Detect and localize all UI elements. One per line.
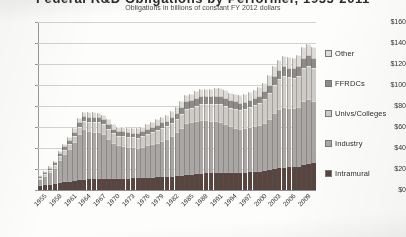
bar-segment-intramural (92, 178, 96, 190)
bar-segment-industry (43, 176, 47, 184)
y-axis-tick-label: $160 (374, 18, 406, 25)
legend-label: Intramural (335, 169, 370, 178)
bar-1994 (228, 93, 232, 190)
bar-segment-industry (58, 160, 62, 182)
legend-item-industry[interactable]: Industry (325, 128, 405, 158)
bar-segment-univs-colleges (150, 132, 154, 144)
bar-segment-univs-colleges (277, 79, 281, 109)
bar-segment-industry (175, 132, 179, 176)
bar-segment-ffrdcs (218, 96, 222, 104)
bar-segment-industry (121, 146, 125, 178)
y-tick-mark (35, 169, 38, 170)
bar-1958 (53, 161, 57, 190)
bar-segment-ffrdcs (301, 58, 305, 68)
x-axis-tick-label: 1967 (91, 192, 106, 207)
bar-segment-industry (204, 120, 208, 172)
bar-segment-univs-colleges (97, 122, 101, 132)
x-axis-tick-label: 1961 (62, 192, 77, 207)
bar-2006 (287, 57, 291, 190)
bar-segment-univs-colleges (175, 119, 179, 132)
bar-1968 (101, 115, 105, 190)
bar-1984 (179, 101, 183, 190)
x-axis-tick-label: 2006 (281, 192, 296, 207)
bar-segment-intramural (62, 181, 66, 190)
bar-segment-industry (62, 154, 66, 181)
bar-segment-other (311, 47, 315, 58)
legend-item-ffrdcs[interactable]: FFRDCs (325, 68, 405, 98)
x-axis-tick-label: 2009 (296, 192, 311, 207)
x-axis-tick-label: 1982 (164, 192, 179, 207)
bar-segment-univs-colleges (267, 93, 271, 119)
bar-segment-intramural (53, 183, 57, 190)
bar-segment-ffrdcs (214, 96, 218, 104)
bar-segment-univs-colleges (82, 121, 86, 129)
legend-item-other[interactable]: Other (325, 38, 405, 68)
bar-segment-univs-colleges (243, 109, 247, 128)
bar-segment-intramural (204, 172, 208, 190)
bar-segment-intramural (199, 173, 203, 190)
bar-2004 (277, 60, 281, 190)
bar-segment-industry (214, 121, 218, 171)
bar-segment-intramural (175, 175, 179, 190)
bar-segment-ffrdcs (287, 68, 291, 78)
bar-segment-other (214, 88, 218, 96)
bar-segment-univs-colleges (296, 76, 300, 107)
bar-segment-ffrdcs (282, 66, 286, 76)
x-axis-tick-label: 1964 (77, 192, 92, 207)
bar-segment-industry (53, 168, 57, 183)
bar-segment-univs-colleges (238, 110, 242, 129)
bar-segment-univs-colleges (262, 99, 266, 123)
bar-segment-industry (194, 121, 198, 174)
bar-1956 (43, 171, 47, 190)
bar-segment-intramural (82, 179, 86, 190)
bar-segment-intramural (262, 170, 266, 190)
bar-segment-intramural (106, 178, 110, 190)
bar-segment-univs-colleges (145, 134, 149, 145)
bar-2001 (262, 83, 266, 190)
bar-segment-univs-colleges (214, 104, 218, 121)
bar-segment-industry (67, 149, 71, 181)
legend-item-univs-colleges[interactable]: Univs/Colleges (325, 98, 405, 128)
x-axis-tick-label: 1988 (194, 192, 209, 207)
chart-legend: OtherFFRDCsUnivs/CollegesIndustryIntramu… (325, 38, 405, 188)
bar-segment-univs-colleges (101, 124, 105, 134)
bar-segment-industry (262, 123, 266, 170)
bar-segment-other (282, 56, 286, 66)
gridline (38, 43, 316, 44)
bar-segment-industry (106, 139, 110, 178)
bar-segment-intramural (155, 176, 159, 190)
bar-segment-intramural (214, 172, 218, 190)
bar-segment-industry (277, 109, 281, 167)
bar-segment-other (267, 75, 271, 84)
bar-1963 (77, 118, 81, 190)
bar-segment-intramural (136, 177, 140, 190)
bar-2002 (267, 75, 271, 190)
bar-segment-univs-colleges (92, 122, 96, 132)
bar-segment-univs-colleges (77, 127, 81, 134)
bar-segment-industry (218, 122, 222, 171)
bar-segment-industry (92, 132, 96, 178)
bar-segment-intramural (170, 176, 174, 190)
bar-segment-univs-colleges (126, 137, 130, 147)
bar-segment-intramural (101, 178, 105, 190)
bar-segment-industry (87, 131, 91, 178)
x-axis-tick-label: 1997 (238, 192, 253, 207)
bar-segment-industry (257, 125, 261, 170)
bar-2009 (301, 47, 305, 190)
legend-item-intramural[interactable]: Intramural (325, 158, 405, 188)
bar-segment-ffrdcs (223, 98, 227, 106)
bar-segment-univs-colleges (170, 123, 174, 135)
bar-segment-industry (287, 108, 291, 167)
bar-segment-industry (189, 122, 193, 173)
bar-1997 (243, 94, 247, 190)
bar-1993 (223, 90, 227, 190)
bar-segment-univs-colleges (87, 122, 91, 131)
bar-1974 (131, 128, 135, 190)
bar-segment-univs-colleges (301, 68, 305, 101)
bar-segment-industry (243, 128, 247, 172)
bar-segment-ffrdcs (292, 68, 296, 77)
bar-segment-univs-colleges (248, 107, 252, 127)
bar-1996 (238, 95, 242, 190)
y-tick-mark (35, 190, 38, 191)
bar-segment-univs-colleges (194, 106, 198, 121)
